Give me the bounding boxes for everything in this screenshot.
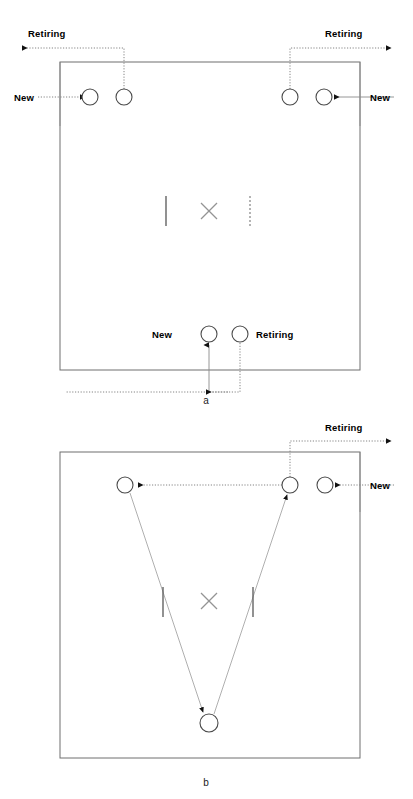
panel-b-caption: b: [203, 777, 209, 788]
panel-b-label-retiring: Retiring: [325, 422, 363, 433]
panel-a-caption: a: [203, 395, 209, 406]
panel-b-court-border: [60, 452, 360, 758]
panel-b-center-cross: [201, 593, 217, 609]
panel-a-node-top-right-new[interactable]: [316, 89, 332, 105]
panel-a-label-retiring-topleft: Retiring: [28, 28, 66, 39]
panel-b-rotation-bottom-to-right: [214, 495, 287, 714]
panel-b-label-new: New: [370, 480, 391, 491]
panel-a-label-new-right: New: [370, 92, 391, 103]
panel-a: Retiring Retiring New New New Retiring a: [14, 28, 394, 406]
panel-b-node-bottom-center[interactable]: [200, 714, 218, 732]
figure-root: Retiring Retiring New New New Retiring a: [0, 0, 413, 799]
panel-a-retiring-path-left: [22, 48, 124, 89]
panel-a-label-new-left: New: [14, 92, 35, 103]
panel-a-node-top-right-retiring[interactable]: [282, 89, 298, 105]
panel-b-retiring-path: [290, 441, 386, 477]
panel-b-node-top-far-right-new[interactable]: [317, 477, 333, 493]
panel-a-label-new-bottom: New: [152, 329, 173, 340]
panel-a-retiring-path-bottom: [66, 343, 240, 392]
rotation-diagram: Retiring Retiring New New New Retiring a: [0, 0, 413, 799]
panel-a-court-border: [60, 62, 360, 370]
panel-b-node-top-right-retiring[interactable]: [282, 477, 298, 493]
panel-a-label-retiring-topright: Retiring: [325, 28, 363, 39]
panel-a-label-retiring-bottom: Retiring: [256, 329, 294, 340]
panel-b-rotation-left-to-bottom: [130, 493, 203, 712]
panel-a-node-bottom-new[interactable]: [201, 326, 217, 342]
panel-b-node-top-left[interactable]: [117, 477, 133, 493]
panel-b: Retiring New b: [60, 422, 394, 788]
panel-a-node-top-left-retiring[interactable]: [116, 89, 132, 105]
panel-a-node-top-left-new[interactable]: [82, 89, 98, 105]
panel-a-node-bottom-retiring[interactable]: [232, 326, 248, 342]
panel-a-retiring-path-right: [290, 48, 386, 89]
panel-a-center-cross: [201, 203, 217, 219]
